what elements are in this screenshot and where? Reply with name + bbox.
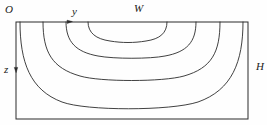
figure-container: O y W z H	[0, 0, 267, 125]
contour-line-4	[88, 22, 167, 43]
horizontal-axis-label-y: y	[72, 6, 77, 17]
contour-line-3	[66, 22, 196, 58]
origin-label-O: O	[5, 4, 13, 15]
z-axis-arrow-icon	[14, 67, 17, 72]
y-axis-arrow-icon	[67, 20, 72, 23]
width-label-W: W	[134, 3, 143, 14]
contour-line-1	[20, 22, 243, 109]
contour-line-2	[43, 22, 220, 81]
vertical-axis-label-z: z	[4, 64, 8, 75]
height-label-H: H	[256, 61, 264, 72]
cross-section-diagram	[0, 0, 267, 125]
cross-section-rectangle	[16, 22, 248, 119]
